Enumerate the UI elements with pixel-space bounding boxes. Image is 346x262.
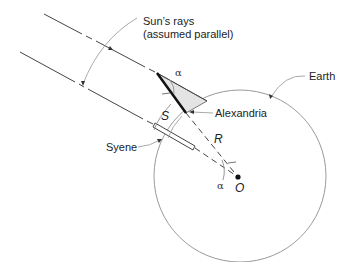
earth-leader [271,76,305,97]
earth-label: Earth [309,70,335,82]
sun-rays-sublabel: (assumed parallel) [143,28,233,40]
alpha-tick [228,162,236,163]
arc-length-label: S [161,110,169,122]
angle-alpha-center-arc [222,160,224,180]
sun-rays-leader [83,18,137,84]
alexandria-label: Alexandria [215,107,267,119]
angle-alpha-top-label: α [175,67,182,79]
syene-label: Syene [106,141,137,153]
radius-label: R [214,133,223,145]
center-dot [235,174,240,179]
alexandria-leader [192,112,213,113]
sun-rays-label: Sun’s rays [143,15,194,27]
angle-alpha-center-label: α [217,180,224,192]
sun-ray-bottom [20,52,153,124]
center-label: O [235,182,244,194]
syene-leader [138,140,160,147]
alpha-tick [162,93,170,94]
